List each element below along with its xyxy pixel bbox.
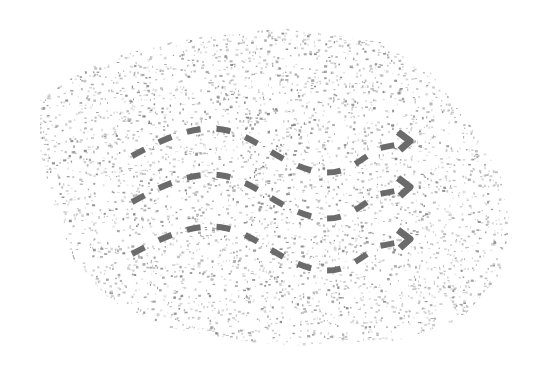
speckled-blob-texture bbox=[0, 0, 548, 373]
flow-illustration bbox=[0, 0, 548, 373]
illustration-canvas bbox=[0, 0, 548, 373]
